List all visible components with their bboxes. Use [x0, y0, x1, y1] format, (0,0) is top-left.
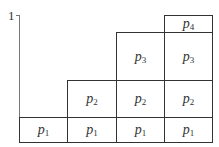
- cell-label: p: [183, 16, 190, 32]
- cell-label: p: [183, 49, 190, 65]
- y-axis-label: 1: [8, 9, 15, 22]
- cell-p4-col3: p4: [164, 15, 213, 33]
- cell-label: p: [135, 49, 142, 65]
- cell-p2-col1: p2: [67, 80, 117, 118]
- cell-subscript: 1: [45, 128, 50, 138]
- cell-p1-col3: p1: [164, 117, 213, 143]
- cell-subscript: 1: [93, 128, 98, 138]
- cell-subscript: 2: [93, 97, 98, 107]
- cell-p2-col3: p2: [164, 80, 213, 118]
- cell-subscript: 1: [190, 128, 195, 138]
- cell-p1-col1: p1: [67, 117, 117, 143]
- cell-p2-col2: p2: [116, 80, 165, 118]
- cell-p3-col3: p3: [164, 32, 213, 81]
- cell-label: p: [86, 91, 93, 107]
- cell-subscript: 2: [190, 97, 195, 107]
- cell-p1-col0: p1: [19, 117, 68, 143]
- cell-p3-col2: p3: [116, 32, 165, 81]
- cell-subscript: 4: [190, 22, 195, 32]
- cell-subscript: 1: [142, 128, 147, 138]
- cell-subscript: 2: [142, 97, 147, 107]
- cell-label: p: [38, 122, 45, 138]
- cell-label: p: [135, 91, 142, 107]
- cell-label: p: [86, 122, 93, 138]
- cell-label: p: [183, 91, 190, 107]
- cell-label: p: [183, 122, 190, 138]
- cell-label: p: [135, 122, 142, 138]
- cell-p1-col2: p1: [116, 117, 165, 143]
- cell-subscript: 3: [142, 55, 147, 65]
- cell-subscript: 3: [190, 55, 195, 65]
- y-axis-tick: [16, 15, 20, 16]
